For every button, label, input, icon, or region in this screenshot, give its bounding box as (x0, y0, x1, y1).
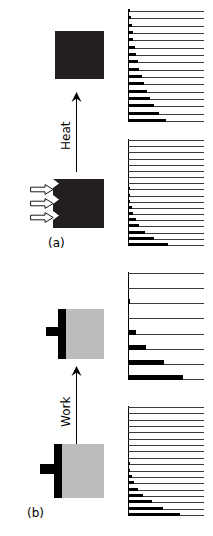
level-population-bar (128, 469, 130, 472)
energy-level (128, 159, 204, 160)
energy-level (128, 183, 204, 184)
heat-label: Heat (59, 122, 73, 150)
figure-root: Heat (a) Work (b) (0, 0, 213, 536)
level-population-bar (128, 330, 136, 335)
heated-block-notched-edge (53, 179, 63, 228)
cold-block (62, 444, 104, 498)
energy-level (128, 288, 204, 289)
energy-ladder-b-initial (128, 406, 206, 516)
level-population-bar (128, 488, 138, 491)
energy-level (128, 451, 204, 452)
energy-level (128, 318, 204, 319)
hot-block (55, 31, 104, 79)
energy-level (128, 196, 204, 197)
energy-level (128, 273, 204, 274)
heat-arrow-3 (30, 212, 54, 223)
level-population-bar (128, 345, 146, 350)
energy-level (128, 33, 204, 34)
heat-arrow-1 (30, 184, 54, 195)
work-arrow-shaft (76, 370, 77, 446)
energy-level (128, 407, 204, 408)
level-population-bar (128, 90, 147, 93)
energy-level (128, 477, 204, 478)
energy-ladder-a-final (128, 10, 206, 122)
energy-level (128, 18, 204, 19)
energy-level (128, 70, 204, 71)
level-population-bar (128, 243, 168, 246)
level-population-bar (128, 104, 154, 107)
energy-level (128, 40, 204, 41)
heat-arrow-2 (30, 198, 54, 209)
worked-block (65, 309, 104, 359)
energy-level (128, 55, 204, 56)
level-population-bar (128, 475, 132, 478)
level-population-bar (128, 24, 132, 27)
energy-level (128, 432, 204, 433)
level-population-bar (128, 375, 183, 380)
heated-block (62, 179, 104, 228)
energy-level (128, 165, 204, 166)
level-population-bar (128, 68, 139, 71)
worked-block-piston-rod (58, 309, 66, 359)
energy-level (128, 48, 204, 49)
level-population-bar (128, 9, 130, 12)
energy-level (128, 445, 204, 446)
energy-level (128, 214, 204, 215)
level-population-bar (128, 46, 135, 49)
energy-level (128, 483, 204, 484)
panel-b-caption: (b) (27, 506, 44, 520)
level-population-bar (128, 82, 144, 85)
energy-level (128, 26, 204, 27)
level-population-bar (128, 119, 166, 122)
level-population-bar (128, 494, 143, 497)
level-population-bar (128, 481, 134, 484)
level-population-bar (128, 212, 133, 215)
cold-block-piston-rod (54, 444, 62, 498)
energy-level (128, 208, 204, 209)
level-population-bar (128, 200, 130, 203)
level-population-bar (128, 237, 154, 240)
level-population-bar (128, 513, 180, 516)
ladder-axis (128, 139, 129, 246)
energy-level (128, 334, 204, 335)
energy-ladder-b-final (128, 272, 206, 380)
energy-level (128, 171, 204, 172)
energy-level (128, 220, 204, 221)
energy-level (128, 490, 204, 491)
level-population-bar (128, 231, 145, 234)
level-population-bar (128, 53, 136, 56)
energy-level (128, 11, 204, 12)
level-population-bar (128, 500, 152, 503)
level-population-bar (128, 16, 131, 19)
energy-level (128, 420, 204, 421)
worked-block-piston-arm (46, 327, 59, 336)
level-population-bar (128, 507, 163, 510)
level-population-bar (128, 187, 130, 190)
panel-a-caption: (a) (48, 236, 65, 250)
level-population-bar (128, 112, 159, 115)
energy-level (128, 471, 204, 472)
level-population-bar (128, 194, 130, 197)
level-population-bar (128, 360, 164, 365)
level-population-bar (128, 462, 130, 465)
level-population-bar (128, 299, 130, 304)
energy-level (128, 413, 204, 414)
level-population-bar (128, 206, 132, 209)
energy-level (128, 439, 204, 440)
energy-level (128, 226, 204, 227)
energy-level (128, 202, 204, 203)
energy-ladder-a-initial (128, 139, 206, 246)
energy-level (128, 426, 204, 427)
level-population-bar (128, 224, 139, 227)
level-population-bar (128, 38, 133, 41)
energy-level (128, 152, 204, 153)
energy-level (128, 458, 204, 459)
level-population-bar (128, 75, 142, 78)
level-population-bar (128, 31, 133, 34)
work-label: Work (59, 397, 73, 427)
work-arrow-head (71, 366, 82, 376)
heat-arrow-shaft (76, 96, 77, 172)
cold-block-piston-arm (40, 464, 55, 474)
energy-level (128, 464, 204, 465)
energy-level (128, 189, 204, 190)
